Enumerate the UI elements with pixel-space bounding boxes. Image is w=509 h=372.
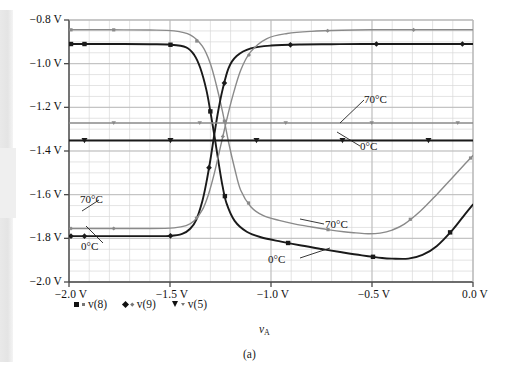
chart-plot-area: [0, 0, 509, 372]
legend-label-v9: v(9): [137, 298, 156, 310]
data-point-marker: [448, 230, 452, 234]
chart-legend: v(8) v(9) v(5): [74, 298, 207, 310]
data-point-marker: [286, 241, 290, 245]
data-point-marker: [206, 165, 212, 171]
data-point-marker: [221, 134, 225, 138]
ytick-label: −1.2 V: [14, 100, 62, 112]
legend-item-v9[interactable]: v(9): [123, 298, 156, 310]
annotation-0c-middle: 0°C: [360, 140, 377, 152]
figure-caption: (a): [243, 348, 256, 360]
triangle-icon: [172, 301, 178, 307]
xtick-label: −1.0 V: [250, 288, 296, 300]
diamond-icon: [122, 300, 129, 307]
data-point-marker: [409, 218, 412, 221]
data-point-marker: [469, 156, 472, 159]
x-axis-title-sub: A: [264, 328, 270, 337]
triangle-small-icon: [181, 303, 185, 306]
data-point-marker: [112, 28, 115, 31]
annotation-70c-left: 70°C: [80, 193, 103, 205]
square-small-icon: [82, 303, 85, 306]
ytick-label: −1.4 V: [14, 144, 62, 156]
diamond-small-icon: [131, 302, 135, 306]
annotation-0c-right: 0°C: [268, 253, 285, 265]
data-point-marker: [82, 42, 86, 46]
data-point-marker: [69, 28, 72, 31]
data-point-marker: [222, 80, 228, 86]
chart-figure: −0.8 V −1.0 V −1.2 V −1.4 V −1.6 V −1.8 …: [0, 0, 509, 372]
data-point-marker: [208, 109, 212, 113]
xtick-label: −0.5 V: [351, 288, 397, 300]
data-point-marker: [168, 43, 172, 47]
annotation-70c-middle: 70°C: [364, 93, 387, 105]
annotation-leader-line: [300, 219, 324, 224]
legend-item-v8[interactable]: v(8): [74, 298, 107, 310]
square-icon: [74, 302, 79, 307]
data-point-marker: [112, 226, 116, 230]
xtick-label: 0.0 V: [452, 288, 498, 300]
legend-item-v5[interactable]: v(5): [172, 298, 207, 310]
data-point-marker: [223, 194, 227, 198]
data-point-marker: [326, 29, 330, 33]
data-point-marker: [168, 233, 174, 239]
data-point-marker: [371, 255, 375, 259]
x-axis-title: vA: [259, 323, 270, 335]
annotation-70c-right: 70°C: [325, 218, 348, 230]
ytick-label: −0.8 V: [14, 13, 62, 25]
data-point-marker: [69, 42, 73, 46]
ytick-label: −1.8 V: [14, 231, 62, 243]
annotation-0c-left: 0°C: [81, 240, 98, 252]
data-point-marker: [247, 201, 250, 204]
figure-page: −0.8 V −1.0 V −1.2 V −1.4 V −1.6 V −1.8 …: [0, 0, 509, 372]
axis-tick-marks: [64, 20, 473, 287]
ytick-label: −1.6 V: [14, 188, 62, 200]
data-point-marker: [288, 42, 294, 48]
legend-label-v5: v(5): [188, 298, 207, 310]
ytick-label: −1.0 V: [14, 57, 62, 69]
data-point-marker: [195, 39, 198, 42]
ytick-label: −2.0 V: [14, 275, 62, 287]
legend-label-v8: v(8): [88, 298, 107, 310]
